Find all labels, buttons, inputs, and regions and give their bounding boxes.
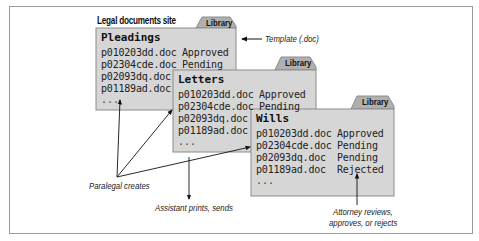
wills-title: Wills: [256, 112, 289, 125]
wills-status-2: Pending: [337, 140, 378, 151]
letters-status-1: Approved: [259, 89, 306, 100]
wills-tab-label: Library: [362, 96, 388, 107]
pleadings-doc-2: p02304cde.doc: [101, 59, 177, 70]
letters-doc-3: p02093dq.doc: [178, 113, 248, 124]
pleadings-title: Pleadings: [101, 31, 161, 44]
pleadings-doc-1: p010203dd.doc: [101, 47, 177, 58]
pleadings-tab-label: Library: [206, 17, 232, 28]
paralegal-annotation: Paralegal creates: [89, 180, 150, 191]
attorney-annotation-line2: approves, or rejects: [329, 217, 397, 228]
letters-more: ...: [178, 136, 196, 147]
pleadings-doc-4: p01189ad.doc: [101, 83, 171, 94]
wills-doc-1: p010203dd.doc: [256, 128, 332, 139]
wills-status-1: Approved: [337, 128, 384, 139]
letters-doc-1: p010203dd.doc: [178, 89, 254, 100]
letters-title: Letters: [178, 73, 224, 86]
wills-status-3: Pending: [337, 152, 378, 163]
wills-doc-2: p02304cde.doc: [256, 140, 332, 151]
pleadings-status-1: Approved: [182, 47, 229, 58]
pleadings-more: ...: [101, 94, 119, 105]
letters-doc-4: p01189ad.doc: [178, 125, 248, 136]
attorney-annotation-line1: Attorney reviews,: [333, 206, 393, 217]
wills-doc-4: p01189ad.doc: [256, 164, 326, 175]
letters-status-2: Pending: [259, 101, 300, 112]
pleadings-doc-3: p02093dq.doc: [101, 71, 171, 82]
pleadings-status-2: Pending: [182, 59, 223, 70]
wills-status-4: Rejected: [337, 164, 384, 175]
letters-tab-label: Library: [285, 57, 311, 68]
letters-doc-2: p02304cde.doc: [178, 101, 254, 112]
wills-more: ...: [256, 175, 274, 186]
site-title: Legal documents site: [97, 15, 176, 26]
wills-doc-3: p02093dq.doc: [256, 152, 326, 163]
assistant-annotation: Assistant prints, sends: [155, 202, 233, 213]
template-annotation: Template (.doc): [265, 33, 319, 44]
